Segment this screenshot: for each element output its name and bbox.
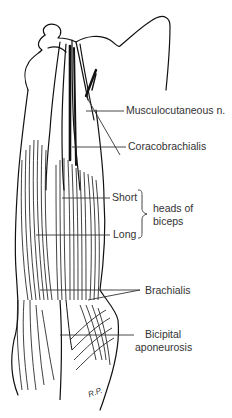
label-short-head: Short [112,191,137,204]
label-long-head: Long [113,228,136,241]
label-aponeurosis: aponeurosis [135,341,192,354]
arm-illustration [0,0,232,418]
label-heads-of: heads of [153,202,193,215]
label-coracobrachialis: Coracobrachialis [128,140,206,153]
label-bicipital: Bicipital [145,328,181,341]
label-musculocutaneous-nerve: Musculocutaneous n. [126,104,225,117]
biceps-anatomy-figure: Musculocutaneous n. Coracobrachialis Sho… [0,0,232,418]
label-brachialis: Brachialis [145,284,191,297]
label-biceps: biceps [153,215,183,228]
